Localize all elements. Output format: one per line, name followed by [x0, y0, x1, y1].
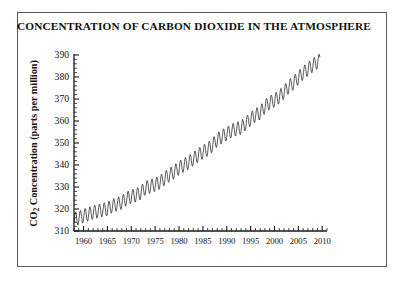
y-tick-label: 330 — [55, 181, 70, 192]
y-tick-label: 310 — [55, 225, 70, 236]
y-tick-label: 320 — [55, 203, 70, 214]
y-tick-label: 350 — [55, 137, 70, 148]
y-tick-label: 340 — [55, 159, 70, 170]
x-tick-label: 1965 — [99, 236, 116, 246]
x-tick-label: 1995 — [242, 236, 259, 246]
y-tick-label: 360 — [55, 115, 70, 126]
chart-figure: CONCENTRATION OF CARBON DIOXIDE IN THE A… — [0, 0, 414, 281]
x-tick-label: 1970 — [123, 236, 140, 246]
x-tick-label: 2010 — [314, 236, 331, 246]
y-tick-label: 370 — [55, 93, 70, 104]
y-tick-label: 380 — [55, 71, 70, 82]
x-tick-label: 1980 — [170, 236, 187, 246]
x-tick-label: 1960 — [75, 236, 92, 246]
x-tick-label: 1975 — [147, 236, 164, 246]
x-tick-label: 2005 — [290, 236, 307, 246]
x-tick-label: 2000 — [266, 236, 283, 246]
x-tick-group: 1960196519701975198019851990199520002005… — [74, 226, 331, 246]
co2-data-curve — [74, 54, 320, 225]
y-tick-group: 310320330340350360370380390 — [55, 49, 79, 236]
x-tick-label: 1985 — [194, 236, 211, 246]
x-tick-label: 1990 — [218, 236, 235, 246]
plot-area: 310320330340350360370380390 196019651970… — [0, 0, 414, 281]
y-tick-label: 390 — [55, 49, 70, 60]
